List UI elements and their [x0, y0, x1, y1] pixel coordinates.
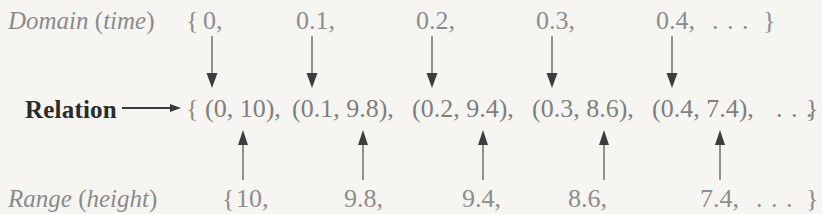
range-close-brace: }	[806, 186, 818, 212]
range-to-relation-arrow-1	[358, 130, 368, 180]
relation-domain-range-diagram: Domain (time) { 0, 0.1, 0.2, 0.3, 0.4, .…	[0, 0, 822, 214]
range-label-paren-close: )	[149, 185, 157, 212]
domain-label-paren-open: (	[89, 7, 104, 34]
domain-close-brace: }	[763, 8, 775, 34]
domain-value-0: 0,	[203, 8, 223, 34]
range-label: Range (height)	[8, 186, 157, 211]
domain-to-relation-arrow-1	[307, 36, 318, 88]
relation-label: Relation	[25, 97, 117, 122]
relation-pair-4: (0.4, 7.4),	[652, 96, 754, 122]
domain-label-main: Domain	[8, 7, 89, 34]
relation-pair-3: (0.3, 8.6),	[532, 96, 634, 122]
domain-value-3: 0.3,	[536, 8, 575, 34]
range-label-paren-word: height	[86, 185, 149, 212]
domain-value-2: 0.2,	[416, 8, 455, 34]
relation-open-brace: {	[186, 96, 198, 122]
range-ellipsis: . . .	[756, 186, 794, 212]
relation-to-set-arrow	[122, 104, 181, 112]
relation-close-brace: }	[806, 96, 818, 122]
range-label-main: Range	[8, 185, 72, 212]
range-to-relation-arrow-2	[478, 130, 488, 180]
relation-pair-2: (0.2, 9.4),	[412, 96, 514, 122]
relation-pair-0: (0, 10),	[205, 96, 281, 122]
domain-ellipsis: . . .	[712, 8, 750, 34]
domain-value-1: 0.1,	[296, 8, 335, 34]
domain-label-paren-close: )	[146, 7, 154, 34]
range-value-1: 9.8,	[344, 186, 383, 212]
range-to-relation-arrow-3	[599, 130, 609, 180]
domain-label: Domain (time)	[8, 8, 155, 33]
domain-to-relation-arrow-3	[547, 36, 558, 88]
domain-to-relation-arrow-2	[427, 36, 438, 88]
relation-pair-1: (0.1, 9.8),	[292, 96, 394, 122]
range-value-4: 7.4,	[700, 186, 739, 212]
range-value-2: 9.4,	[462, 186, 501, 212]
domain-value-4: 0.4,	[656, 8, 695, 34]
domain-open-brace: {	[186, 8, 198, 34]
domain-to-relation-arrow-0	[207, 36, 218, 88]
range-to-relation-arrow-4	[715, 130, 725, 180]
domain-label-paren-word: time	[103, 7, 146, 34]
range-open-brace: {	[222, 186, 234, 212]
range-to-relation-arrow-0	[238, 130, 248, 180]
range-value-0: 10,	[236, 186, 269, 212]
range-value-3: 8.6,	[568, 186, 607, 212]
domain-to-relation-arrow-4	[667, 36, 678, 88]
range-label-paren-open: (	[72, 185, 87, 212]
